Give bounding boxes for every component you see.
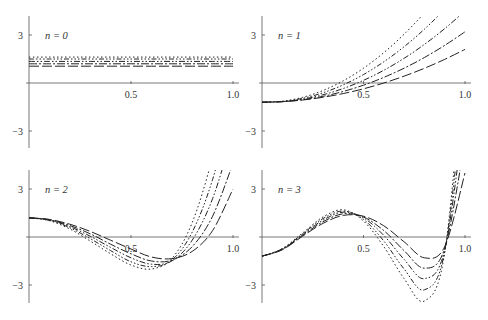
y-tick-label: −3 (245, 280, 256, 291)
y-tick-label: 3 (18, 30, 23, 41)
panel-label: n = 2 (45, 184, 69, 195)
x-tick-label: 0.5 (357, 243, 370, 254)
figure: 0.51.03−3n = 0 0.51.03−3n = 1 0.51.03−3n… (0, 0, 488, 320)
y-tick-label: 3 (251, 184, 256, 195)
panel-label: n = 3 (278, 184, 301, 195)
panel-n3: 0.51.03−3n = 3 (245, 45, 471, 303)
y-tick-label: −3 (12, 126, 23, 137)
x-tick-label: 1.0 (459, 89, 472, 100)
x-tick-label: 1.0 (227, 243, 240, 254)
panel-label: n = 0 (45, 30, 69, 41)
x-tick-label: 0.5 (357, 89, 370, 100)
y-tick-label: 3 (18, 184, 23, 195)
y-tick-label: 3 (251, 30, 256, 41)
panel-n0: 0.51.03−3n = 0 (12, 16, 239, 148)
y-tick-label: −3 (245, 126, 256, 137)
x-tick-label: 0.5 (125, 89, 138, 100)
panel-n1: 0.51.03−3n = 1 (245, 0, 471, 148)
panel-label: n = 1 (278, 30, 301, 41)
y-tick-label: −3 (12, 280, 23, 291)
series-curve-1 (29, 189, 233, 259)
x-tick-label: 1.0 (459, 243, 472, 254)
x-tick-label: 1.0 (227, 89, 240, 100)
panel-n2: 0.51.03−3n = 2 (12, 69, 239, 303)
